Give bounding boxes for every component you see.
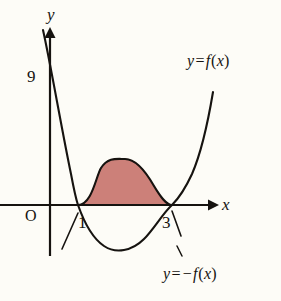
leader-tick-neg-f [177,246,182,256]
x-axis-label: x [222,196,230,213]
shaded-region-under-neg-f [78,159,172,205]
y-tick-label-9: 9 [27,68,36,85]
curve-label-f-equals: = [194,52,205,69]
tick-pointer-one [62,213,78,249]
curve-label-f-var: x [217,52,224,69]
curve-label-neg-f-of-x: y=−f(x) [163,266,217,282]
curve-label-negf-close-paren: ) [211,265,217,282]
tick-pointer-three [172,211,181,236]
curve-label-negf-minus: − [182,265,193,282]
curve-label-f-close-paren: ) [224,52,230,69]
origin-label: O [25,208,37,224]
y-axis-arrowhead [45,27,56,38]
x-tick-label-1: 1 [78,214,87,231]
x-axis-arrowhead [208,200,219,211]
curve-label-negf-equals: = [170,265,181,282]
y-axis-label: y [47,6,55,23]
x-tick-label-3: 3 [162,214,171,231]
graph-svg [0,0,281,301]
figure-canvas: y x 9 O 1 3 y=f(x) y=−f(x) [0,0,281,301]
curve-label-f-of-x: y=f(x) [187,53,230,69]
